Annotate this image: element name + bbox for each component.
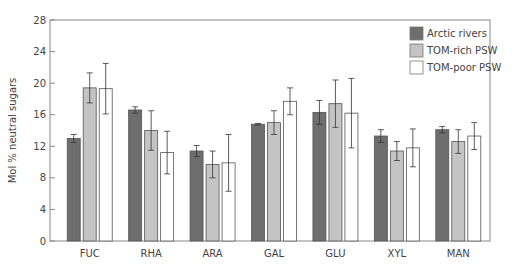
legend-swatch bbox=[410, 44, 423, 57]
bar-fuc-0 bbox=[67, 138, 80, 241]
x-category-label: GAL bbox=[264, 248, 285, 259]
bar-xyl-1 bbox=[390, 151, 403, 241]
bar-chart: 0481216202428Mol % neutral sugarsFUCRHAA… bbox=[0, 0, 518, 267]
bar-xyl-0 bbox=[374, 136, 387, 241]
bar-man-1 bbox=[452, 142, 465, 241]
bar-man-0 bbox=[436, 130, 449, 241]
y-tick-label: 0 bbox=[40, 236, 46, 247]
legend-label: TOM-poor PSW bbox=[426, 62, 501, 73]
bar-glu-0 bbox=[313, 112, 326, 241]
bar-gal-0 bbox=[252, 124, 265, 241]
y-tick-label: 24 bbox=[33, 46, 46, 57]
bar-fuc-1 bbox=[83, 88, 96, 241]
x-category-label: FUC bbox=[80, 248, 100, 259]
x-category-label: ARA bbox=[202, 248, 222, 259]
legend-swatch bbox=[410, 27, 423, 40]
legend-label: TOM-rich PSW bbox=[426, 45, 497, 56]
bar-rha-0 bbox=[129, 110, 142, 241]
x-category-label: RHA bbox=[140, 248, 161, 259]
bar-man-2 bbox=[468, 136, 481, 241]
x-category-label: XYL bbox=[388, 248, 407, 259]
x-category-label: MAN bbox=[447, 248, 470, 259]
bar-ara-0 bbox=[190, 151, 203, 241]
legend-label: Arctic rivers bbox=[427, 28, 487, 39]
y-tick-label: 28 bbox=[33, 15, 46, 26]
legend-swatch bbox=[410, 61, 423, 74]
y-axis-label: Mol % neutral sugars bbox=[7, 78, 18, 184]
y-tick-label: 20 bbox=[33, 78, 46, 89]
bar-gal-1 bbox=[268, 123, 281, 241]
x-category-label: GLU bbox=[325, 248, 345, 259]
y-tick-label: 12 bbox=[33, 141, 46, 152]
y-tick-label: 8 bbox=[40, 172, 46, 183]
y-tick-label: 16 bbox=[33, 109, 46, 120]
y-tick-label: 4 bbox=[40, 204, 46, 215]
bar-gal-2 bbox=[284, 101, 297, 241]
